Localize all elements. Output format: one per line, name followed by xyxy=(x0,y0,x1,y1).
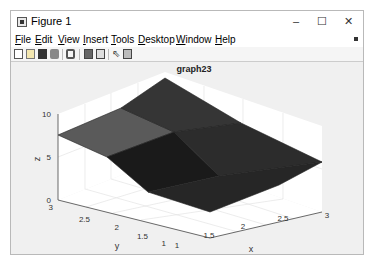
menu-insert[interactable]: Insert xyxy=(83,34,108,45)
minimize-button[interactable]: – xyxy=(286,13,306,29)
z-tick: 5 xyxy=(47,153,52,162)
toolbar-separator xyxy=(108,49,109,60)
link-plot-icon[interactable] xyxy=(66,49,75,59)
figure-canvas: graph23 xyxy=(11,62,363,254)
maximize-button[interactable]: ☐ xyxy=(312,13,332,29)
toolbar: ⇖ xyxy=(11,47,363,62)
close-button[interactable]: ✕ xyxy=(338,13,358,29)
menu-window[interactable]: Window xyxy=(176,34,212,45)
menu-tools[interactable]: Tools xyxy=(111,34,134,45)
z-axis-label: z xyxy=(32,156,42,161)
edit-plot-pointer-icon[interactable]: ⇖ xyxy=(112,49,121,59)
menu-edit[interactable]: Edit xyxy=(35,34,52,45)
print-icon[interactable] xyxy=(50,49,59,59)
x-tick: 2 xyxy=(241,222,246,231)
dock-figure-icon[interactable] xyxy=(354,37,358,41)
plot-title: graph23 xyxy=(176,64,211,74)
x-tick: 1.5 xyxy=(203,231,215,240)
x-tick: 3 xyxy=(325,211,330,220)
surface-plot[interactable]: graph23 xyxy=(11,62,363,254)
y-tick: 2 xyxy=(115,223,120,232)
plot-tools-icon[interactable] xyxy=(123,49,132,59)
save-icon[interactable] xyxy=(38,49,47,59)
x-tick: 2.5 xyxy=(277,214,289,223)
title-bar[interactable]: Figure 1 – ☐ ✕ xyxy=(11,11,363,33)
window-title: Figure 1 xyxy=(31,15,71,27)
y-tick: 3 xyxy=(49,203,54,212)
x-axis-label: x xyxy=(249,244,254,254)
insert-colorbar-icon[interactable] xyxy=(84,49,93,59)
menu-bar: File Edit View Insert Tools Desktop Wind… xyxy=(11,33,363,47)
toolbar-separator xyxy=(62,49,63,60)
insert-legend-icon[interactable] xyxy=(96,49,105,59)
z-tick: 10 xyxy=(42,110,51,119)
open-file-icon[interactable] xyxy=(26,49,35,59)
matlab-figure-icon xyxy=(17,17,27,27)
menu-file[interactable]: File xyxy=(15,34,31,45)
y-tick: 1 xyxy=(162,239,167,248)
toolbar-separator xyxy=(79,49,80,60)
y-axis-label: y xyxy=(115,241,120,251)
y-tick: 2.5 xyxy=(79,215,91,224)
menu-desktop[interactable]: Desktop xyxy=(138,34,175,45)
y-tick: 1.5 xyxy=(137,232,149,241)
new-figure-icon[interactable] xyxy=(14,49,23,59)
menu-view[interactable]: View xyxy=(58,34,80,45)
menu-help[interactable]: Help xyxy=(215,34,236,45)
x-tick: 1 xyxy=(175,241,180,250)
figure-window: Figure 1 – ☐ ✕ File Edit View Insert Too… xyxy=(10,10,364,255)
